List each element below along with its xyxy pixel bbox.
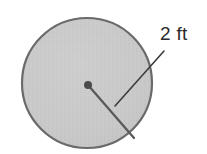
radius-dimension-label: 2 ft [160,24,188,43]
circle-diagram-figure: 2 ft [0,0,207,154]
center-point-dot [84,81,92,89]
